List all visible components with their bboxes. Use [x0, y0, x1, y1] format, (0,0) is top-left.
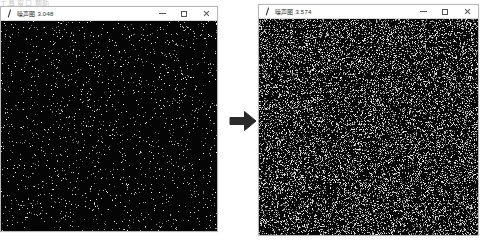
minimize-button-before[interactable]: [151, 7, 173, 21]
dense-noise-image: [259, 19, 478, 235]
window-title-before: 噪声图 3.048: [17, 9, 151, 18]
image-viewer-icon: [4, 9, 14, 19]
minimize-icon: [420, 11, 427, 12]
minimize-button-after[interactable]: [412, 5, 434, 19]
maximize-button-after[interactable]: [434, 5, 456, 19]
window-controls-after: [412, 5, 478, 18]
minimize-icon: [159, 13, 166, 14]
sparse-noise-image: [1, 21, 217, 231]
window-controls-before: [151, 7, 217, 20]
maximize-icon: [442, 9, 448, 15]
maximize-button-before[interactable]: [173, 7, 195, 21]
image-viewer-window-after[interactable]: 噪声图 3.574: [258, 4, 479, 236]
image-canvas-after[interactable]: [259, 19, 478, 235]
image-viewer-window-before[interactable]: 噪声图 3.048: [0, 6, 218, 232]
close-icon: [203, 10, 210, 17]
window-title-after: 噪声图 3.574: [275, 7, 412, 16]
close-button-after[interactable]: [456, 5, 478, 19]
close-button-before[interactable]: [195, 7, 217, 21]
image-viewer-icon: [262, 7, 272, 17]
right-arrow-icon: [228, 106, 258, 136]
titlebar-after[interactable]: 噪声图 3.574: [259, 5, 478, 19]
image-canvas-before[interactable]: [1, 21, 217, 231]
titlebar-before[interactable]: 噪声图 3.048: [1, 7, 217, 21]
close-icon: [464, 8, 471, 15]
maximize-icon: [181, 11, 187, 17]
